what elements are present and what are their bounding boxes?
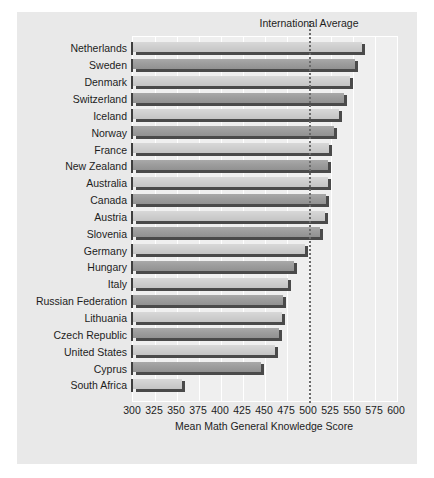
bar-fill: [133, 295, 283, 305]
x-tick-label: 525: [321, 404, 339, 416]
bar-shadow-bottom: [136, 153, 332, 156]
bar-row: Australia: [133, 175, 397, 192]
bar-row: Canada: [133, 192, 397, 209]
x-tick-label: 500: [299, 404, 317, 416]
bar-shadow-right: [328, 162, 331, 173]
category-label: Slovenia: [87, 228, 127, 240]
bar-left-cap: [131, 76, 133, 89]
bar-row: Switzerland: [133, 91, 397, 108]
bar: [133, 143, 329, 155]
bar-row: Slovenia: [133, 225, 397, 242]
bar-row: Lithuania: [133, 310, 397, 327]
bar: [133, 227, 320, 239]
bar-row: Cyprus: [133, 360, 397, 377]
x-tick-label: 375: [189, 404, 207, 416]
category-label: Lithuania: [84, 312, 127, 324]
bar-row: Netherlands: [133, 40, 397, 57]
bar-shadow-bottom: [136, 103, 347, 106]
category-label: Australia: [86, 177, 127, 189]
bar: [133, 261, 294, 273]
bar-left-cap: [131, 126, 133, 139]
bar-shadow-bottom: [136, 221, 328, 224]
bar-shadow-bottom: [136, 338, 282, 341]
bar-shadow-right: [283, 297, 286, 308]
bar: [133, 295, 283, 307]
bar-fill: [133, 59, 355, 69]
category-label: Norway: [91, 127, 127, 139]
bar-fill: [133, 160, 328, 170]
category-label: Austria: [94, 211, 127, 223]
bar-fill: [133, 345, 275, 355]
bar-shadow-bottom: [136, 288, 291, 291]
international-average-line: [309, 21, 311, 403]
bar-shadow-right: [325, 213, 328, 224]
bar-fill: [133, 312, 282, 322]
bar-shadow-bottom: [136, 372, 264, 375]
bar-shadow-right: [334, 128, 337, 139]
bar-shadow-right: [294, 263, 297, 274]
bar-fill: [133, 261, 294, 271]
bar-shadow-right: [326, 196, 329, 207]
bar-left-cap: [131, 109, 133, 122]
bar-shadow-right: [362, 44, 365, 55]
x-tick-label: 425: [233, 404, 251, 416]
bar-left-cap: [131, 227, 133, 240]
x-tick-label: 350: [167, 404, 185, 416]
bar-shadow-right: [288, 280, 291, 291]
bar-row: United States: [133, 343, 397, 360]
bar-left-cap: [131, 177, 133, 190]
bar-left-cap: [131, 278, 133, 291]
bar-left-cap: [131, 379, 133, 392]
bar-row: France: [133, 141, 397, 158]
bar-shadow-bottom: [136, 119, 342, 122]
category-label: France: [94, 144, 127, 156]
international-average-label: International Average: [259, 17, 358, 29]
category-label: New Zealand: [65, 160, 127, 172]
category-label: Sweden: [89, 59, 127, 71]
bar-shadow-right: [329, 145, 332, 156]
bar-shadow-right: [320, 229, 323, 240]
bar-fill: [133, 227, 320, 237]
x-tick-label: 600: [387, 404, 405, 416]
bar: [133, 362, 261, 374]
bar-shadow-bottom: [136, 305, 286, 308]
bar-fill: [133, 328, 279, 338]
bar: [133, 312, 282, 324]
bar-fill: [133, 42, 362, 52]
bar-left-cap: [131, 211, 133, 224]
bar: [133, 59, 355, 71]
category-label: Germany: [84, 245, 127, 257]
bar-fill: [133, 93, 344, 103]
category-label: Hungary: [87, 261, 127, 273]
bar-fill: [133, 211, 325, 221]
bar-left-cap: [131, 328, 133, 341]
bar: [133, 93, 344, 105]
bar-left-cap: [131, 42, 133, 55]
bar-fill: [133, 278, 288, 288]
bar-shadow-right: [275, 347, 278, 358]
bar-shadow-bottom: [136, 187, 331, 190]
bar-shadow-bottom: [136, 69, 358, 72]
bar-left-cap: [131, 160, 133, 173]
bar-shadow-right: [355, 61, 358, 72]
bar-fill: [133, 126, 334, 136]
bar-shadow-bottom: [136, 86, 353, 89]
bar: [133, 211, 325, 223]
bar-row: Norway: [133, 124, 397, 141]
bar-shadow-bottom: [136, 355, 278, 358]
x-tick-label: 400: [211, 404, 229, 416]
category-label: Czech Republic: [53, 329, 127, 341]
bar-fill: [133, 143, 329, 153]
x-tick-label: 450: [255, 404, 273, 416]
bar-row: Russian Federation: [133, 293, 397, 310]
bar-left-cap: [131, 362, 133, 375]
bar-shadow-bottom: [136, 254, 308, 257]
bar-left-cap: [131, 345, 133, 358]
bar-fill: [133, 244, 305, 254]
bar: [133, 345, 275, 357]
bar: [133, 126, 334, 138]
bar-left-cap: [131, 93, 133, 106]
bar: [133, 328, 279, 340]
bar-left-cap: [131, 59, 133, 72]
category-label: Netherlands: [70, 42, 127, 54]
